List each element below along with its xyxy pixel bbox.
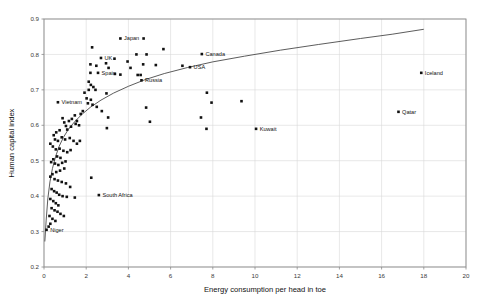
data-point	[69, 186, 72, 189]
y-tick-label: 0.9	[30, 15, 39, 22]
data-point	[54, 138, 57, 141]
data-point	[69, 149, 72, 152]
data-point	[135, 53, 138, 56]
data-point	[57, 164, 60, 167]
chart-canvas: JapanCanadaUSAUKSpainRussiaVietnamIcelan…	[0, 0, 477, 303]
data-point	[59, 213, 62, 216]
point-labels-layer: JapanCanadaUSAUKSpainRussiaVietnamIcelan…	[50, 35, 443, 232]
data-point	[71, 118, 74, 121]
data-point	[74, 114, 77, 117]
data-point	[155, 64, 158, 67]
data-point	[95, 64, 98, 67]
data-point	[129, 67, 132, 70]
point-label-qatar: Qatar	[402, 109, 416, 115]
data-point	[76, 120, 79, 123]
point-label-iceland: Iceland	[425, 70, 443, 76]
data-point	[52, 200, 55, 203]
data-point	[162, 48, 165, 51]
data-point	[63, 121, 66, 124]
data-point	[61, 195, 64, 198]
trend-line	[45, 29, 424, 241]
data-point-canada	[201, 53, 204, 56]
data-point	[90, 176, 93, 179]
data-point	[63, 215, 66, 218]
data-point	[50, 161, 53, 164]
data-point	[119, 73, 122, 76]
x-tick-label: 8	[211, 272, 215, 279]
point-label-spain: Spain	[102, 70, 116, 76]
data-point	[105, 92, 108, 95]
data-point	[60, 136, 63, 139]
data-point	[54, 162, 57, 165]
x-tick-label: 2	[84, 272, 88, 279]
trend-curve	[45, 29, 424, 241]
data-point	[92, 86, 95, 89]
data-point	[53, 178, 56, 181]
data-point	[49, 175, 52, 178]
data-point	[50, 188, 53, 191]
x-tick-label: 10	[252, 272, 259, 279]
data-point	[72, 140, 75, 143]
data-point	[49, 222, 52, 225]
data-point	[206, 91, 209, 94]
data-point	[58, 147, 61, 150]
data-point	[106, 127, 109, 130]
data-point	[55, 171, 58, 174]
data-point	[181, 64, 184, 67]
data-point	[107, 116, 110, 119]
x-tick-label: 6	[169, 272, 173, 279]
data-point	[51, 218, 54, 221]
data-point-niger	[45, 229, 48, 232]
data-point	[57, 179, 60, 182]
data-point	[68, 120, 71, 123]
data-point	[83, 91, 86, 94]
data-point	[59, 157, 62, 160]
data-point	[70, 125, 73, 128]
data-point	[76, 142, 79, 145]
data-point	[59, 169, 62, 172]
data-point-russia	[140, 79, 143, 82]
point-label-japan: Japan	[124, 35, 139, 41]
data-point	[94, 89, 97, 92]
data-point	[142, 63, 145, 66]
data-point-south-africa	[98, 194, 101, 197]
x-axis-title: Energy consumption per head in toe	[204, 285, 326, 294]
data-point-japan	[119, 37, 122, 40]
data-point	[74, 196, 77, 199]
x-tick-label: 18	[420, 272, 427, 279]
y-tick-label: 0.2	[30, 263, 39, 270]
data-point	[52, 134, 55, 137]
point-label-niger: Niger	[50, 227, 64, 233]
data-point	[62, 149, 65, 152]
data-point	[64, 138, 67, 141]
data-point	[91, 103, 94, 106]
y-tick-label: 0.7	[30, 86, 39, 93]
point-label-usa: USA	[194, 64, 206, 70]
y-tick-label: 0.5	[30, 157, 39, 164]
data-point	[74, 123, 77, 126]
data-point	[65, 125, 68, 128]
data-point	[107, 67, 110, 70]
data-point	[79, 140, 82, 143]
data-point	[89, 63, 92, 66]
data-point	[136, 74, 139, 77]
data-point	[55, 191, 58, 194]
x-tick-label: 16	[378, 272, 385, 279]
data-point	[50, 207, 53, 210]
data-point	[126, 60, 129, 63]
data-point	[91, 46, 94, 49]
data-point	[61, 117, 64, 120]
data-point	[149, 120, 152, 123]
data-point-kuwait	[255, 128, 258, 131]
data-point	[53, 190, 56, 193]
y-tick-label: 0.8	[30, 51, 39, 58]
data-point	[90, 98, 93, 101]
data-point	[49, 198, 52, 201]
x-tick-label: 4	[127, 272, 131, 279]
data-point	[200, 116, 203, 119]
data-point	[79, 113, 82, 116]
data-point	[54, 220, 57, 223]
data-point	[90, 84, 93, 87]
point-label-vietnam: Vietnam	[62, 99, 83, 105]
data-point	[87, 80, 90, 83]
